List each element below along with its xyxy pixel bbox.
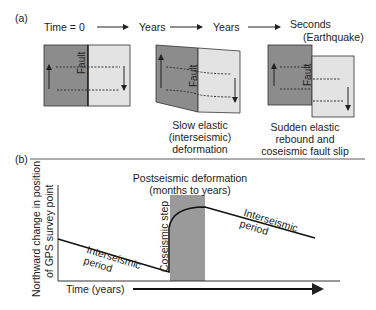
timeline-t1: Years (139, 21, 165, 33)
caption-block2-l1: Slow elastic (160, 119, 240, 131)
panel-b-label: (b) (15, 153, 28, 165)
timeline-t3-sub: (Earthquake) (303, 31, 364, 43)
x-axis-label: Time (years) (66, 283, 125, 295)
fault-label-2: Fault (188, 65, 200, 87)
annotation-coseismic-step: Coseismic step (158, 201, 170, 272)
timeline-t0: Time = 0 (44, 21, 85, 33)
caption-block2-l3: deformation (160, 143, 240, 155)
fault-label-1: Fault (76, 52, 88, 74)
timeline-t2: Years (213, 21, 239, 33)
panel-a-label: (a) (15, 12, 28, 24)
caption-block2-l2: (interseismic) (160, 131, 240, 143)
caption-block3-l3: coseismic fault slip (255, 145, 355, 157)
fault-label-3: Fault (302, 64, 314, 86)
caption-block3-l2: rebound and (255, 133, 355, 145)
chart-title-l2: (months to years) (120, 184, 260, 196)
chart (58, 185, 340, 289)
chart-title-l1: Postseismic deformation (120, 172, 260, 184)
timeline-t3: Seconds (290, 18, 331, 30)
y-axis-label-l1: Northward change in position (30, 161, 42, 297)
caption-block3-l1: Sudden elastic (255, 121, 355, 133)
y-axis-label-l2: of GPS survey point (43, 185, 55, 278)
